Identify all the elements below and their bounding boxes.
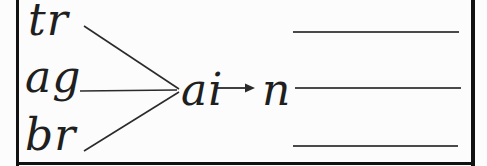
merge-lines [80,26,179,151]
frame-border-right [471,0,475,166]
final-n: n [262,68,291,112]
onset-br: br [25,113,76,157]
onset-tr: tr [28,0,69,42]
frame-border-bottom [16,162,475,165]
merge-line-bottom [84,92,179,151]
merge-line-middle [80,90,177,91]
frame-border-left [16,0,19,166]
merge-line-top [84,26,179,89]
answer-lines [293,32,461,146]
medial-ai: ai [181,68,223,112]
onset-ag: ag [25,55,81,99]
phonics-worksheet-cell: tr ag br ai n [0,0,487,166]
